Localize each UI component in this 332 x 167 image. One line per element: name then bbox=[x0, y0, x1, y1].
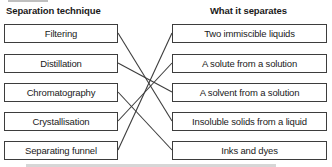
right-item-box[interactable]: A solvent from a solution bbox=[172, 83, 327, 102]
column-heading-what-it-separates: What it separates bbox=[210, 5, 287, 16]
right-item-box[interactable]: Two immiscible liquids bbox=[172, 24, 327, 43]
left-item-box[interactable]: Filtering bbox=[4, 24, 118, 43]
connection-line bbox=[118, 92, 172, 150]
connection-line bbox=[118, 63, 172, 121]
left-item-box[interactable]: Crystallisation bbox=[4, 112, 118, 131]
right-item-box[interactable]: A solute from a solution bbox=[172, 54, 327, 73]
right-item-box[interactable]: Insoluble solids from a liquid bbox=[172, 112, 327, 131]
left-item-box[interactable]: Separating funnel bbox=[4, 141, 118, 160]
cropped-text-bottom bbox=[26, 164, 276, 167]
cropped-line-top bbox=[8, 0, 48, 2]
connection-line bbox=[118, 63, 172, 92]
column-heading-separation-technique: Separation technique bbox=[6, 5, 101, 16]
connection-line bbox=[118, 33, 172, 121]
right-item-box[interactable]: Inks and dyes bbox=[172, 141, 327, 160]
connection-line bbox=[118, 33, 172, 150]
matching-worksheet: Separation technique What it separates F… bbox=[0, 0, 332, 167]
left-item-box[interactable]: Distillation bbox=[4, 54, 118, 73]
left-item-box[interactable]: Chromatography bbox=[4, 83, 118, 102]
